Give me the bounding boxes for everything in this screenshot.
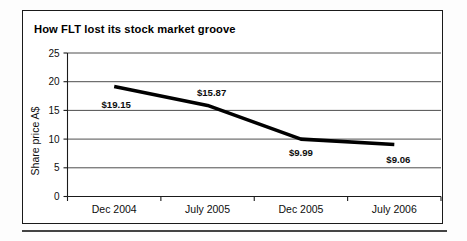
y-axis-title: Share price A$ <box>29 106 41 175</box>
y-tick-labels-group: 0510152025 <box>48 48 60 203</box>
y-tick-label: 0 <box>54 191 60 202</box>
x-category-label: Dec 2004 <box>92 203 137 215</box>
bottom-rule-divider <box>22 230 447 232</box>
x-category-labels-group: Dec 2004July 2005Dec 2005July 2006 <box>92 203 417 215</box>
line-chart-plot: Share price A$ 0510152025 Dec 2004July 2… <box>23 11 444 225</box>
point-value-label: $19.15 <box>102 99 132 110</box>
figure-container: How FLT lost its stock market groove Sha… <box>0 0 467 241</box>
x-category-label: July 2005 <box>185 203 230 215</box>
x-category-label: July 2006 <box>372 203 417 215</box>
y-tick-label: 10 <box>48 134 60 145</box>
x-category-label: Dec 2005 <box>278 203 323 215</box>
y-tick-label: 15 <box>48 105 60 116</box>
y-tick-label: 5 <box>54 162 60 173</box>
chart-frame: How FLT lost its stock market groove Sha… <box>22 10 443 224</box>
y-tick-label: 25 <box>48 48 60 59</box>
point-value-label: $9.06 <box>386 154 410 165</box>
y-tick-label: 20 <box>48 76 60 87</box>
point-value-label: $15.87 <box>197 87 226 98</box>
point-value-label: $9.99 <box>289 147 313 158</box>
series-line-flt-share-price <box>114 87 394 145</box>
x-tick-marks-group <box>68 197 442 202</box>
gridlines-group <box>68 53 442 168</box>
point-value-labels-group: $19.15$15.87$9.99$9.06 <box>102 87 411 165</box>
y-tick-marks-group <box>64 53 68 197</box>
